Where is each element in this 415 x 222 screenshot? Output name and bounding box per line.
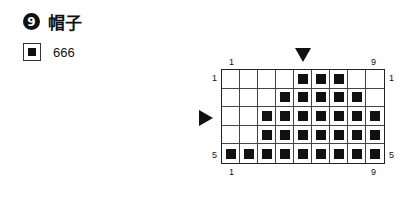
grid-cell [348,89,366,108]
filled-square-icon [244,149,254,159]
top-label-right: 9 [371,57,376,67]
filled-square-icon [298,149,308,159]
filled-square-icon [298,130,308,140]
grid-cell [276,126,294,145]
grid-cell [240,70,258,89]
grid-cell [240,107,258,126]
filled-square-icon [298,74,308,84]
grid-cell [330,70,348,89]
filled-square-icon [262,111,272,121]
grid-cell [312,89,330,108]
filled-square-icon [298,111,308,121]
filled-square-icon [352,149,362,159]
grid-cell [222,144,240,163]
grid-cell [276,144,294,163]
top-label-left: 1 [229,57,234,67]
grid-cell [294,89,312,108]
filled-square-icon [226,149,236,159]
filled-square-icon [316,92,326,102]
filled-square-icon [316,74,326,84]
grid-cell [330,144,348,163]
right-label-bottom: 5 [389,150,394,160]
grid-cell [312,70,330,89]
filled-square-icon [280,149,290,159]
grid-cell [366,144,384,163]
grid-cell [294,107,312,126]
filled-square-icon [352,92,362,102]
filled-square-icon [262,130,272,140]
pattern-grid [221,69,385,164]
filled-square-icon [316,111,326,121]
filled-square-icon [280,92,290,102]
grid-cell [348,70,366,89]
grid-cell [258,126,276,145]
grid-cell [312,107,330,126]
grid-cell [258,107,276,126]
filled-square-icon [316,149,326,159]
number-badge: 9 [23,13,40,30]
grid-cell [240,89,258,108]
grid-cell [330,89,348,108]
grid-cell [258,70,276,89]
grid-cell [222,107,240,126]
row-marker-arrow-icon [199,110,213,126]
left-label-bottom: 5 [212,150,217,160]
filled-square-icon [280,130,290,140]
grid-cell [348,107,366,126]
filled-square-icon [334,149,344,159]
grid-cell [366,107,384,126]
grid-cell [222,89,240,108]
filled-square-icon [334,92,344,102]
grid-cell [294,126,312,145]
grid-cell [258,144,276,163]
grid-cell [330,107,348,126]
grid-cell [222,70,240,89]
grid-cell [276,89,294,108]
grid-cell [294,70,312,89]
bottom-label-right: 9 [371,167,376,177]
legend: 666 [23,43,75,61]
grid-cell [276,70,294,89]
grid-cell [366,126,384,145]
filled-square-icon [334,111,344,121]
section-title: 9 帽子 [23,9,82,34]
grid-cell [240,144,258,163]
filled-square-icon [370,111,380,121]
grid-cell [222,126,240,145]
left-label-top: 1 [212,73,217,83]
filled-square-icon [280,111,290,121]
legend-label: 666 [53,45,75,60]
grid-cell [330,126,348,145]
grid-cell [258,89,276,108]
grid-cell [348,144,366,163]
column-marker-arrow-icon [295,48,311,62]
grid-cell [348,126,366,145]
right-label-top: 1 [389,73,394,83]
grid-cell [294,144,312,163]
filled-square-icon [352,130,362,140]
bottom-label-left: 1 [229,167,234,177]
filled-square-icon [370,130,380,140]
filled-square-icon [352,111,362,121]
filled-square-icon [370,149,380,159]
grid-cell [366,89,384,108]
grid-cell [312,126,330,145]
filled-square-icon [316,130,326,140]
grid-cell [240,126,258,145]
title-text: 帽子 [48,9,82,34]
filled-square-icon [334,130,344,140]
filled-square-icon [23,43,41,61]
filled-square-icon [334,74,344,84]
filled-square-icon [262,149,272,159]
filled-square-icon [298,92,308,102]
grid-cell [312,144,330,163]
grid-cell [276,107,294,126]
grid-cell [366,70,384,89]
